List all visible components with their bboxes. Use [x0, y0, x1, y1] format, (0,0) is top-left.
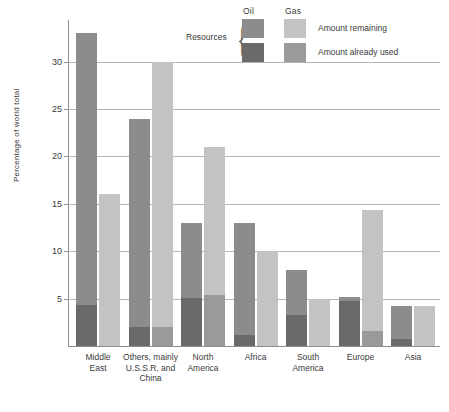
- gridline: 30: [68, 62, 440, 63]
- bar-gas: [204, 147, 225, 346]
- bar-segment-oil-used: [181, 298, 202, 346]
- y-axis-tick-mark: [64, 299, 68, 300]
- y-axis-tick-mark: [64, 251, 68, 252]
- bar-gas: [414, 306, 435, 346]
- y-axis-tick-label: 30: [52, 57, 62, 67]
- y-axis-tick-label: 10: [52, 246, 62, 256]
- bar-segment-oil-remaining: [286, 270, 307, 315]
- bar-segment-oil-used: [286, 315, 307, 346]
- bar-segment-gas-remaining: [99, 194, 120, 346]
- bar-segment-gas-used: [152, 327, 173, 346]
- x-axis-line: [68, 346, 440, 347]
- bar-oil: [129, 119, 150, 346]
- legend-column-header-gas: Gas: [285, 6, 301, 16]
- y-axis-tick-label: 20: [52, 151, 62, 161]
- x-axis-category-label: Asia: [376, 352, 449, 363]
- bar-segment-gas-remaining: [152, 62, 173, 327]
- y-axis-tick-label: 5: [57, 294, 62, 304]
- y-axis-tick-label: 25: [52, 104, 62, 114]
- bar-oil: [234, 223, 255, 346]
- bar-segment-oil-used: [129, 327, 150, 346]
- y-axis-tick-mark: [64, 204, 68, 205]
- legend-column-header-oil: Oil: [243, 6, 254, 16]
- y-axis-tick-label: 15: [52, 199, 62, 209]
- bar-oil: [339, 297, 360, 346]
- bar-segment-gas-remaining: [362, 210, 383, 330]
- bar-oil: [76, 33, 97, 346]
- y-axis-tick-mark: [64, 109, 68, 110]
- gridline: 15: [68, 204, 440, 205]
- gridline: 25: [68, 109, 440, 110]
- bar-segment-gas-used: [204, 295, 225, 346]
- bar-segment-oil-remaining: [181, 223, 202, 298]
- plot-area: 51015202530 MiddleEastOthers, mainlyU.S.…: [68, 20, 440, 347]
- bar-oil: [286, 270, 307, 346]
- bar-segment-gas-remaining: [414, 306, 435, 346]
- y-axis-title: Percentage of world total: [12, 89, 21, 183]
- bar-gas: [152, 62, 173, 346]
- bar-gas: [99, 194, 120, 346]
- bar-segment-oil-used: [234, 335, 255, 346]
- bar-gas: [362, 210, 383, 346]
- bar-segment-gas-remaining: [204, 147, 225, 295]
- bar-gas: [257, 251, 278, 346]
- y-axis-tick-mark: [64, 156, 68, 157]
- bar-segment-oil-used: [339, 301, 360, 346]
- bar-segment-oil-remaining: [129, 119, 150, 328]
- bar-segment-oil-used: [76, 305, 97, 346]
- bar-segment-oil-remaining: [234, 223, 255, 335]
- bar-segment-oil-remaining: [391, 306, 412, 339]
- gridline: 20: [68, 156, 440, 157]
- bar-segment-gas-remaining: [309, 299, 330, 346]
- y-axis-tick-mark: [64, 62, 68, 63]
- bar-segment-oil-used: [391, 339, 412, 346]
- bar-oil: [391, 306, 412, 346]
- bar-segment-oil-remaining: [76, 33, 97, 305]
- bar-oil: [181, 223, 202, 346]
- figure-grouped-stacked-bar-chart: Oil Gas Resources { Amount remaining Amo…: [0, 0, 449, 412]
- bar-segment-gas-remaining: [257, 251, 278, 346]
- bar-gas: [309, 299, 330, 346]
- bar-segment-gas-used: [362, 331, 383, 346]
